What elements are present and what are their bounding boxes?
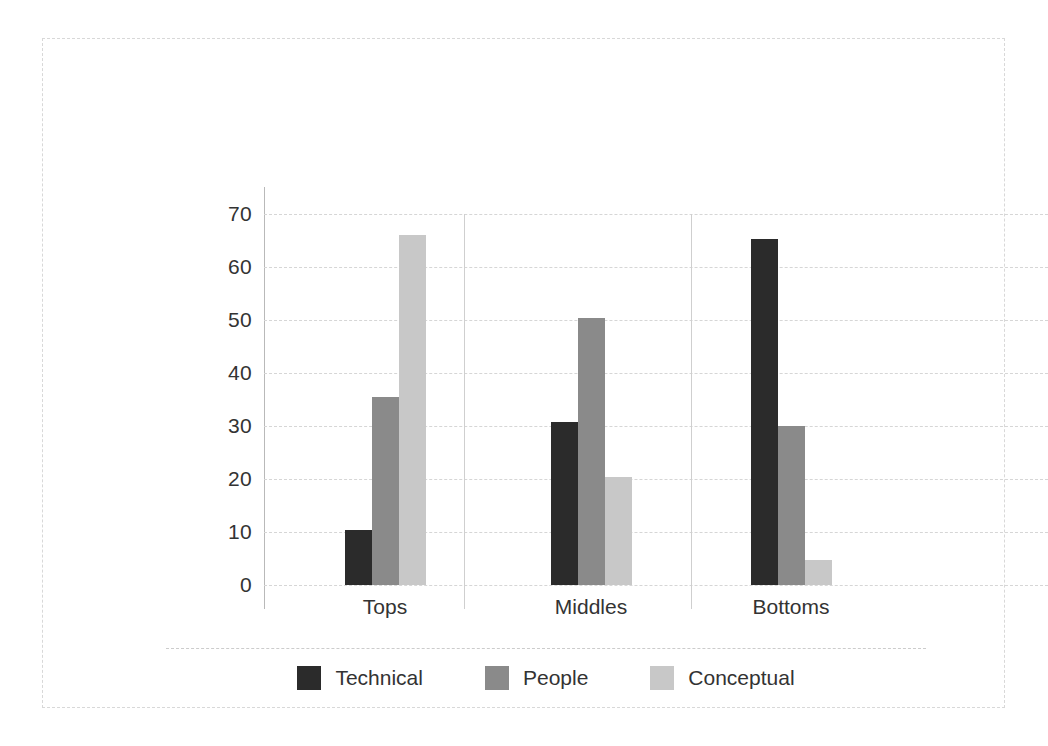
bar-bottoms-technical[interactable] — [751, 239, 778, 585]
y-tick-label-20: 20 — [182, 467, 252, 491]
chart-legend: TechnicalPeopleConceptual — [166, 663, 926, 693]
x-label-tops: Tops — [363, 595, 407, 619]
y-tick-label-0: 0 — [182, 573, 252, 597]
bar-middles-people[interactable] — [578, 318, 605, 585]
bar-group-tops — [285, 214, 485, 585]
legend-label-conceptual: Conceptual — [688, 666, 794, 690]
x-label-middles: Middles — [555, 595, 627, 619]
y-tick-label-10: 10 — [182, 520, 252, 544]
legend-swatch-people-icon — [485, 666, 509, 690]
gridline-0 — [264, 585, 1048, 586]
legend-divider — [166, 648, 926, 649]
y-tick-label-30: 30 — [182, 414, 252, 438]
legend-label-technical: Technical — [335, 666, 423, 690]
bar-group-middles — [491, 214, 691, 585]
y-tick-label-50: 50 — [182, 308, 252, 332]
y-tick-label-70: 70 — [182, 202, 252, 226]
bar-tops-technical[interactable] — [345, 530, 372, 585]
bar-group-bottoms — [691, 214, 891, 585]
bar-tops-conceptual[interactable] — [399, 235, 426, 585]
y-tick-label-40: 40 — [182, 361, 252, 385]
bar-tops-people[interactable] — [372, 397, 399, 585]
legend-label-people: People — [523, 666, 588, 690]
legend-item-technical[interactable]: Technical — [297, 666, 423, 690]
chart-figure-frame: 010203040506070 TopsMiddlesBottoms Techn… — [42, 38, 1005, 708]
legend-swatch-conceptual-icon — [650, 666, 674, 690]
bar-bottoms-conceptual[interactable] — [805, 560, 832, 585]
x-axis-category-labels: TopsMiddlesBottoms — [264, 595, 1048, 629]
y-tick-label-60: 60 — [182, 255, 252, 279]
plot-area — [264, 214, 1048, 585]
legend-item-people[interactable]: People — [485, 666, 588, 690]
legend-item-conceptual[interactable]: Conceptual — [650, 666, 794, 690]
bar-middles-conceptual[interactable] — [605, 477, 632, 585]
y-axis-tick-labels: 010203040506070 — [178, 214, 252, 585]
bar-bottoms-people[interactable] — [778, 426, 805, 585]
bar-middles-technical[interactable] — [551, 422, 578, 585]
legend-swatch-technical-icon — [297, 666, 321, 690]
x-label-bottoms: Bottoms — [752, 595, 829, 619]
